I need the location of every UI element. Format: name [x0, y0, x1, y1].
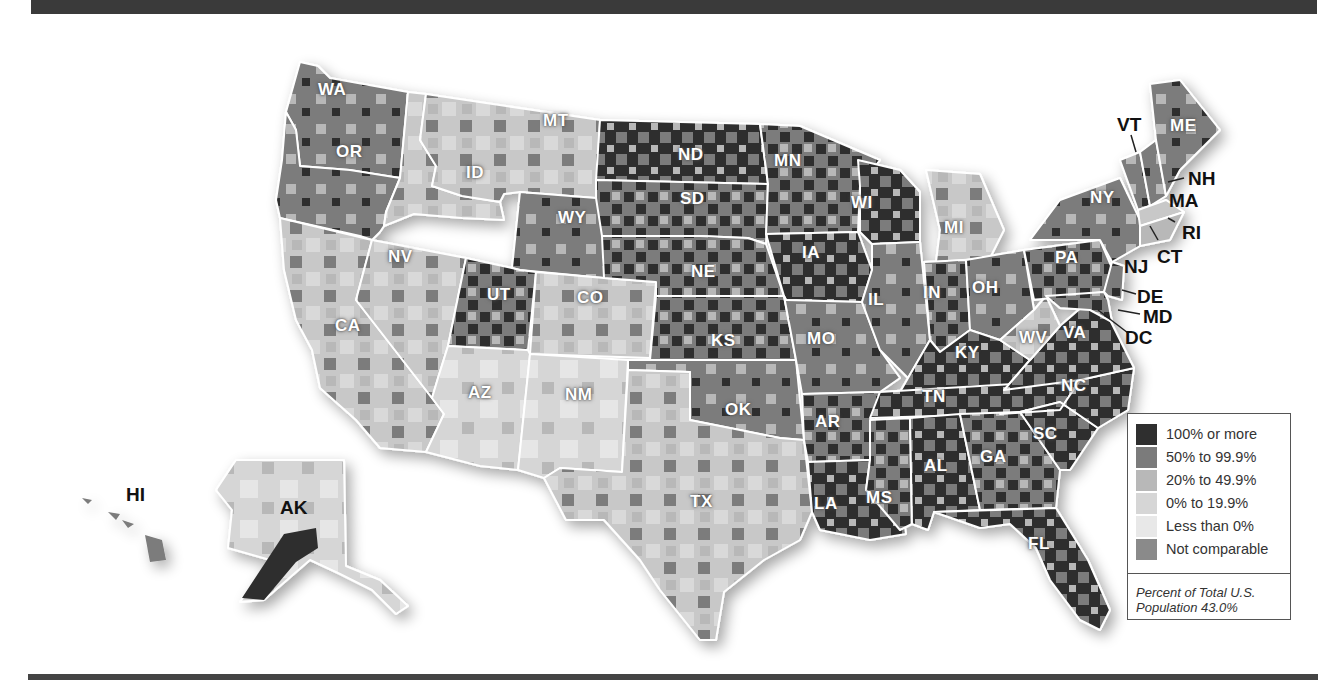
state-label-pa: PA	[1055, 248, 1078, 268]
state-co	[530, 272, 656, 358]
legend-swatch	[1136, 539, 1157, 560]
callout-label-ct: CT	[1157, 246, 1182, 268]
state-label-nm: NM	[565, 385, 592, 405]
state-label-ca: CA	[335, 316, 361, 336]
callout-label-ak: AK	[280, 497, 307, 519]
callout-label-dc: DC	[1125, 327, 1152, 349]
legend-label: 100% or more	[1166, 426, 1257, 442]
state-label-la: LA	[814, 494, 838, 514]
state-label-ar: AR	[815, 412, 841, 432]
state-label-nc: NC	[1061, 376, 1087, 396]
state-label-ia: IA	[802, 243, 820, 263]
state-label-ut: UT	[487, 285, 511, 305]
state-label-tn: TN	[922, 387, 946, 407]
legend-item: Not comparable	[1136, 539, 1268, 559]
legend-label: 0% to 19.9%	[1166, 495, 1248, 511]
state-label-ne: NE	[691, 262, 716, 282]
legend-label: 50% to 99.9%	[1166, 449, 1256, 465]
legend-item: Less than 0%	[1136, 516, 1254, 536]
state-label-tx: TX	[690, 492, 713, 512]
map-legend: 100% or more 50% to 99.9% 20% to 49.9% 0…	[1127, 413, 1291, 574]
state-label-in: IN	[923, 283, 941, 303]
state-label-co: CO	[577, 288, 604, 308]
state-mi	[926, 170, 1004, 262]
state-label-sd: SD	[680, 189, 705, 209]
state-label-or: OR	[336, 142, 363, 162]
state-label-wv: WV	[1019, 328, 1047, 348]
legend-label: Not comparable	[1166, 541, 1268, 557]
state-az	[426, 346, 530, 470]
state-label-oh: OH	[972, 278, 999, 298]
legend-swatch	[1136, 470, 1157, 491]
state-label-va: VA	[1063, 323, 1086, 343]
state-wy	[512, 192, 608, 278]
state-label-ny: NY	[1090, 188, 1115, 208]
state-label-wy: WY	[558, 208, 586, 228]
state-label-ky: KY	[955, 343, 980, 363]
state-label-mt: MT	[543, 111, 569, 131]
callout-label-ri: RI	[1182, 222, 1201, 244]
callout-label-hi: HI	[126, 484, 145, 506]
state-label-ok: OK	[725, 400, 752, 420]
state-mt	[420, 94, 600, 202]
legend-label: 20% to 49.9%	[1166, 472, 1256, 488]
state-label-ga: GA	[980, 447, 1007, 467]
legend-swatch	[1136, 516, 1157, 537]
state-label-al: AL	[924, 456, 948, 476]
state-hi-big	[145, 535, 166, 562]
legend-label: Less than 0%	[1166, 518, 1254, 534]
state-nm	[518, 354, 628, 478]
state-label-mo: MO	[807, 329, 835, 349]
state-label-mi: MI	[944, 218, 964, 238]
callout-label-ma: MA	[1169, 190, 1199, 212]
callout-label-nj: NJ	[1124, 256, 1148, 278]
legend-item: 100% or more	[1136, 424, 1257, 444]
state-label-nv: NV	[388, 247, 413, 267]
state-label-wa: WA	[318, 80, 346, 100]
state-label-il: IL	[868, 290, 884, 310]
callout-label-vt: VT	[1117, 114, 1141, 136]
callout-label-md: MD	[1143, 306, 1173, 328]
state-label-nd: ND	[678, 145, 704, 165]
state-label-sc: SC	[1033, 424, 1058, 444]
state-label-mn: MN	[774, 151, 801, 171]
callout-label-nh: NH	[1188, 168, 1215, 190]
state-label-ks: KS	[711, 331, 736, 351]
state-label-ms: MS	[866, 488, 893, 508]
state-label-az: AZ	[468, 383, 492, 403]
legend-swatch	[1136, 424, 1157, 445]
callout-label-de: DE	[1137, 286, 1163, 308]
state-label-me: ME	[1170, 116, 1197, 136]
legend-item: 50% to 99.9%	[1136, 447, 1256, 467]
bottom-rule	[28, 674, 1318, 680]
legend-item: 0% to 19.9%	[1136, 493, 1248, 513]
legend-note-frame	[1127, 574, 1291, 620]
legend-swatch	[1136, 493, 1157, 514]
state-label-wi: WI	[851, 193, 873, 213]
state-label-id: ID	[466, 163, 484, 183]
state-fl	[934, 508, 1110, 630]
legend-swatch	[1136, 447, 1157, 468]
state-ar	[802, 392, 880, 462]
legend-item: 20% to 49.9%	[1136, 470, 1256, 490]
state-label-fl: FL	[1028, 534, 1050, 554]
